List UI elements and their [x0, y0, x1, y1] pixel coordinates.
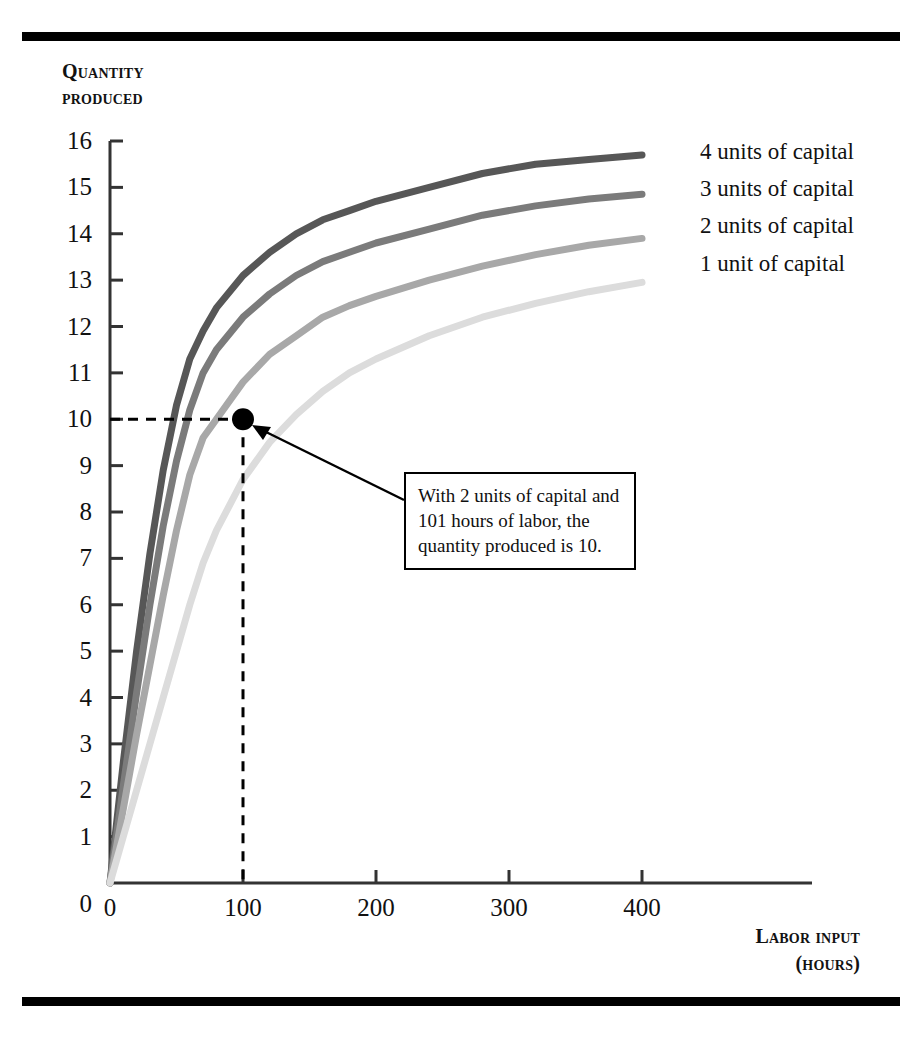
annotation-callout: With 2 units of capital and 101 hours of…	[404, 472, 636, 570]
y-tick-label: 16	[52, 128, 92, 153]
y-tick-label: 8	[52, 499, 92, 524]
y-tick-label: 15	[52, 174, 92, 199]
legend-item-3-units: 3 units of capital	[700, 177, 854, 200]
annotation-line-1: With 2 units of capital and	[418, 483, 623, 508]
x-tick-label: 300	[474, 895, 544, 920]
legend-item-1-units: 1 unit of capital	[700, 252, 845, 275]
x-tick-label: 400	[607, 895, 677, 920]
y-tick-label: 7	[52, 545, 92, 570]
y-tick-label: 5	[52, 638, 92, 663]
y-tick-label: 11	[52, 360, 92, 385]
legend-item-4-units: 4 units of capital	[700, 140, 854, 163]
x-tick-label: 200	[341, 895, 411, 920]
x-axis-ticks	[243, 870, 642, 883]
annotation-line-2: 101 hours of labor, the	[418, 508, 623, 533]
y-tick-label: 13	[52, 267, 92, 292]
y-tick-label: 6	[52, 592, 92, 617]
annotation-line-3: quantity produced is 10.	[418, 533, 623, 558]
y-tick-label: 3	[52, 731, 92, 756]
y-tick-label: 14	[52, 221, 92, 246]
y-tick-label: 12	[52, 314, 92, 339]
y-tick-label: 4	[52, 685, 92, 710]
y-tick-label: 10	[52, 406, 92, 431]
figure-container: Quantity produced Labor input(hours) 012…	[0, 0, 919, 1054]
x-tick-label: 0	[75, 895, 145, 920]
legend-item-2-units: 2 units of capital	[700, 214, 854, 237]
y-tick-label: 2	[52, 777, 92, 802]
y-axis-ticks	[110, 141, 123, 837]
y-tick-label: 9	[52, 453, 92, 478]
y-tick-label: 1	[52, 824, 92, 849]
x-tick-label: 100	[208, 895, 278, 920]
